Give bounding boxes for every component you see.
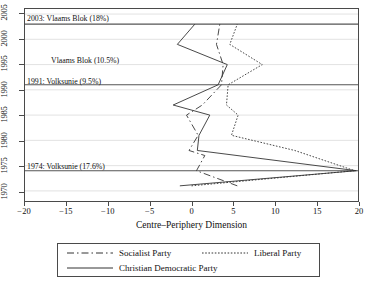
x-tick-label-5: 5 xyxy=(231,206,235,216)
legend-item-liberal-party: Liberal Party xyxy=(201,248,301,258)
x-tick-label--5: −5 xyxy=(145,206,154,216)
legend-item-socialist-party: Socialist Party xyxy=(66,248,171,258)
y-tick-label-2005: 2005 xyxy=(0,0,9,28)
legend-label-liberal-party: Liberal Party xyxy=(254,248,301,258)
x-tick-label--10: −10 xyxy=(101,206,114,216)
x-tick-label--20: −20 xyxy=(17,206,30,216)
x-tick-label--15: −15 xyxy=(59,206,72,216)
y-tick-label-1980: 1980 xyxy=(0,125,9,155)
annotation-1974: 1974: Volksunie (17.6%) xyxy=(27,162,105,171)
legend-label-socialist-party: Socialist Party xyxy=(119,248,171,258)
x-tick-label-10: 10 xyxy=(271,206,280,216)
y-tick-label-1970: 1970 xyxy=(0,176,9,206)
chart-legend: Socialist Party Liberal Party Christian … xyxy=(57,243,320,277)
series-line-socialist-party xyxy=(187,24,238,186)
plot-svg xyxy=(25,9,358,201)
x-tick-label-0: 0 xyxy=(189,206,193,216)
x-axis-title: Centre–Periphery Dimension xyxy=(24,220,359,230)
legend-item-christian-democratic-party: Christian Democratic Party xyxy=(66,263,217,273)
y-tick-label-2000: 2000 xyxy=(0,23,9,53)
annotation-1991: 1991: Volksunie (9.5%) xyxy=(27,77,101,86)
annotation-1995: Vlaams Blok (10.5%) xyxy=(51,56,119,65)
chart-figure: 19701975198019851990199520002005 2003: V… xyxy=(0,0,377,285)
x-tick-label-15: 15 xyxy=(313,206,322,216)
legend-swatch-dash-dot xyxy=(66,248,114,258)
legend-swatch-dotted xyxy=(201,248,249,258)
y-axis: 19701975198019851990199520002005 xyxy=(0,0,24,210)
legend-label-christian-democratic-party: Christian Democratic Party xyxy=(119,263,217,273)
legend-swatch-solid xyxy=(66,263,114,273)
series-line-liberal-party xyxy=(192,24,355,186)
y-tick-label-1990: 1990 xyxy=(0,74,9,104)
plot-area: 2003: Vlaams Blok (18%)Vlaams Blok (10.5… xyxy=(24,8,359,202)
x-tick-label-20: 20 xyxy=(355,206,364,216)
annotation-2003: 2003: Vlaams Blok (18%) xyxy=(27,14,109,23)
